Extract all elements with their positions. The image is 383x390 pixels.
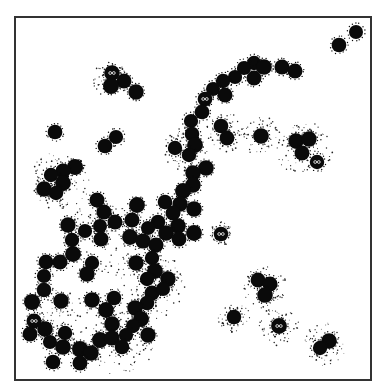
figure-frame [14,16,372,381]
microscopy-figure [0,0,383,390]
